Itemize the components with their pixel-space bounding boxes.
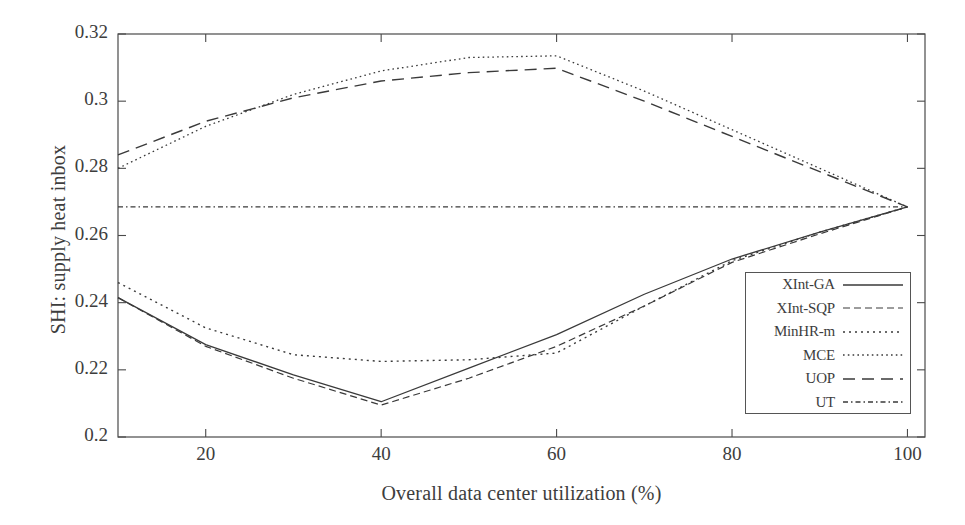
legend-item-mce[interactable]: MCE	[746, 344, 910, 368]
legend-label-2: MinHR-m	[774, 323, 835, 340]
legend-item-xint-sqp[interactable]: XInt-SQP	[746, 297, 910, 321]
legend-swatch-3	[842, 349, 904, 361]
legend-swatch-4	[842, 373, 904, 385]
legend-label-5: UT	[815, 394, 835, 411]
series-line-uop	[118, 68, 907, 207]
legend-label-4: UOP	[806, 370, 835, 387]
chart-figure: SHI: supply heat inbox Overall data cent…	[0, 0, 965, 525]
legend-label-0: XInt-GA	[782, 276, 835, 293]
legend-swatch-0	[842, 279, 904, 291]
series-line-mce	[118, 56, 907, 207]
legend-item-minhr-m[interactable]: MinHR-m	[746, 320, 910, 344]
plot-area	[0, 0, 965, 525]
legend-swatch-5	[842, 396, 904, 408]
chart-legend: XInt-GAXInt-SQPMinHR-mMCEUOPUT	[745, 272, 911, 414]
legend-label-1: XInt-SQP	[777, 300, 835, 317]
legend-item-ut[interactable]: UT	[746, 391, 910, 415]
legend-swatch-1	[842, 302, 904, 314]
legend-label-3: MCE	[803, 347, 835, 364]
legend-swatch-2	[842, 326, 904, 338]
legend-item-xint-ga[interactable]: XInt-GA	[746, 273, 910, 297]
legend-item-uop[interactable]: UOP	[746, 367, 910, 391]
